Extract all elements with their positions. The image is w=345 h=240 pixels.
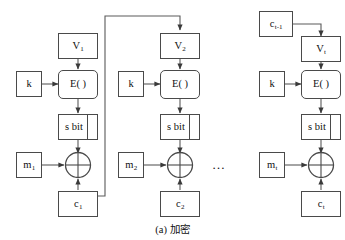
figure-caption: (a) 加密 bbox=[0, 221, 345, 236]
key-label-stage-1: k bbox=[26, 79, 31, 90]
ciphertext-label-stage-1: c1 bbox=[74, 199, 82, 210]
cipher-box-stage-2: E( ) bbox=[160, 70, 200, 99]
message-label-stage-t: mt bbox=[267, 160, 277, 171]
iv-box-stage-2: V2 bbox=[160, 33, 200, 59]
key-box-stage-t: k bbox=[259, 71, 285, 97]
select-bits-divider-stage-1 bbox=[87, 115, 88, 139]
message-label-stage-1: m1 bbox=[23, 160, 35, 171]
xor-gate-t bbox=[309, 153, 334, 178]
select-bits-box-stage-2: s bit bbox=[160, 114, 200, 140]
select-bits-box-stage-t: s bit bbox=[301, 114, 341, 140]
ciphertext-box-stage-2: c2 bbox=[160, 191, 200, 217]
cipher-box-stage-t: E( ) bbox=[301, 70, 341, 99]
ciphertext-label-stage-t: ct bbox=[318, 199, 325, 210]
cipher-label-stage-t: E( ) bbox=[313, 79, 329, 90]
edge-ctprev-to-vt bbox=[293, 24, 321, 36]
select-bits-divider-stage-2 bbox=[189, 115, 190, 139]
key-box-stage-1: k bbox=[16, 71, 42, 97]
iv-label-stage-1: V1 bbox=[72, 41, 83, 52]
stage-ellipsis: … bbox=[212, 157, 226, 173]
iv-label-stage-2: V2 bbox=[174, 41, 185, 52]
xor-gate-2 bbox=[168, 153, 193, 178]
previous-ciphertext-box-stage-t: ct-1 bbox=[259, 11, 293, 37]
cfb-encryption-diagram: V1 E( ) k s bit m1 c1 V2 E( ) k s bit m2… bbox=[0, 0, 345, 240]
message-label-stage-2: m2 bbox=[125, 160, 137, 171]
ciphertext-box-stage-t: ct bbox=[301, 191, 341, 217]
xor-gate-1 bbox=[66, 153, 91, 178]
iv-box-stage-t: Vt bbox=[301, 36, 341, 62]
key-box-stage-2: k bbox=[118, 71, 144, 97]
ciphertext-label-stage-2: c2 bbox=[176, 199, 184, 210]
message-box-stage-2: m2 bbox=[118, 152, 144, 178]
select-bits-divider-stage-t bbox=[330, 115, 331, 139]
message-box-stage-1: m1 bbox=[16, 152, 42, 178]
iv-box-stage-1: V1 bbox=[58, 33, 98, 59]
message-box-stage-t: mt bbox=[259, 152, 285, 178]
key-label-stage-t: k bbox=[269, 79, 274, 90]
cipher-label-stage-2: E( ) bbox=[172, 79, 188, 90]
previous-ciphertext-label-stage-t: ct-1 bbox=[270, 19, 282, 30]
cipher-box-stage-1: E( ) bbox=[58, 70, 98, 99]
select-bits-label-stage-t: s bit bbox=[308, 122, 326, 133]
key-label-stage-2: k bbox=[128, 79, 133, 90]
select-bits-label-stage-2: s bit bbox=[167, 122, 185, 133]
ciphertext-box-stage-1: c1 bbox=[58, 191, 98, 217]
iv-label-stage-t: Vt bbox=[316, 44, 326, 55]
cipher-label-stage-1: E( ) bbox=[70, 79, 86, 90]
select-bits-label-stage-1: s bit bbox=[65, 122, 83, 133]
select-bits-box-stage-1: s bit bbox=[58, 114, 98, 140]
